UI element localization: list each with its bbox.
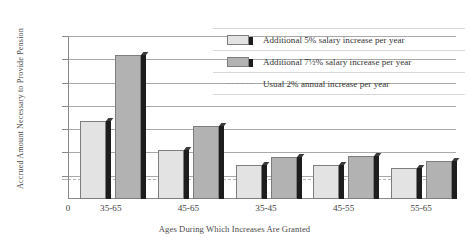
- bar-35-65-75pct: [115, 55, 141, 199]
- bar-face: [271, 157, 297, 199]
- y-axis-title: Accrued Amount Necessary to Provide Pens…: [16, 9, 25, 209]
- bar-top-shadow: [141, 52, 148, 55]
- legend-swatch-75pct-icon: [227, 57, 253, 67]
- bar-side-shadow: [374, 156, 379, 199]
- bar-45-55-5pct: [313, 165, 339, 199]
- bar-chart: Accrued Amount Necessary to Provide Pens…: [0, 0, 469, 248]
- x-axis-tick-label: 35-45: [255, 203, 276, 213]
- bar-face: [80, 121, 106, 199]
- bar-face: [193, 126, 219, 199]
- bar-face: [158, 150, 184, 199]
- x-axis-tick-label: 45-65: [178, 203, 199, 213]
- bar-side-shadow: [417, 168, 422, 199]
- bar-35-65-5pct: [80, 121, 106, 199]
- bar-side-shadow: [297, 157, 302, 199]
- bar-top-shadow: [374, 153, 381, 156]
- bar-top-shadow: [339, 162, 346, 165]
- bar-55-65-5pct: [391, 168, 417, 199]
- bar-55-65-75pct: [426, 161, 452, 199]
- bar-45-65-5pct: [158, 150, 184, 199]
- legend-label-5pct: Additional 5% salary increase per year: [263, 35, 405, 45]
- legend-item-5pct: Additional 5% salary increase per year: [213, 28, 465, 50]
- bar-top-shadow: [417, 165, 424, 168]
- bar-face: [348, 156, 374, 199]
- bar-face: [313, 165, 339, 199]
- legend-label-75pct: Additional 7½% salary increase per year: [263, 57, 411, 67]
- bar-face: [391, 168, 417, 199]
- bar-top-shadow: [452, 158, 459, 161]
- x-axis-tick-label: 55-65: [410, 203, 431, 213]
- legend: Additional 5% salary increase per year A…: [213, 28, 465, 95]
- bar-side-shadow: [141, 55, 146, 199]
- bar-side-shadow: [452, 161, 457, 199]
- legend-label-reference: Usual 2% annual increase per year: [263, 79, 389, 89]
- legend-swatch-5pct-icon: [227, 35, 253, 45]
- bar-face: [115, 55, 141, 199]
- bar-side-shadow: [262, 165, 267, 199]
- x-axis-tick-label: 35-65: [100, 203, 121, 213]
- bar-top-shadow: [106, 118, 113, 121]
- bar-face: [236, 165, 262, 199]
- bar-35-45-5pct: [236, 165, 262, 199]
- x-axis-title: Ages During Which Increases Are Granted: [0, 224, 469, 234]
- bar-side-shadow: [106, 121, 111, 199]
- bar-side-shadow: [184, 150, 189, 199]
- legend-swatch-dashed-line-icon: [227, 83, 253, 84]
- bar-35-45-75pct: [271, 157, 297, 199]
- x-axis-tick-label: 45-55: [333, 203, 354, 213]
- bar-top-shadow: [297, 154, 304, 157]
- bar-top-shadow: [184, 147, 191, 150]
- bar-side-shadow: [219, 126, 224, 199]
- bar-45-65-75pct: [193, 126, 219, 199]
- bar-side-shadow: [339, 165, 344, 199]
- bar-top-shadow: [262, 162, 269, 165]
- x-axis-origin-label: 0: [66, 203, 71, 213]
- legend-item-reference: Usual 2% annual increase per year: [213, 72, 465, 95]
- legend-item-75pct: Additional 7½% salary increase per year: [213, 50, 465, 72]
- bar-45-55-75pct: [348, 156, 374, 199]
- bar-top-shadow: [219, 123, 226, 126]
- bar-face: [426, 161, 452, 199]
